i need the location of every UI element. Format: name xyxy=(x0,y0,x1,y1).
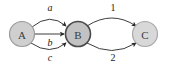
edge-label-a: a xyxy=(48,2,53,13)
graph-canvas: A B C a b c 1 2 xyxy=(0,0,170,67)
edge-1-path xyxy=(87,18,136,26)
edge-2-path xyxy=(87,43,136,51)
edge-label-c: c xyxy=(48,52,53,63)
edge-group-b-to-c xyxy=(87,18,136,51)
node-c[interactable]: C xyxy=(133,22,158,47)
node-b-label: B xyxy=(74,29,81,41)
node-c-label: C xyxy=(141,29,148,41)
node-a-label: A xyxy=(18,29,26,41)
edge-label-2: 2 xyxy=(111,52,116,63)
graph-diagram: A B C a b c 1 2 xyxy=(0,0,170,67)
edge-label-b: b xyxy=(48,37,53,48)
node-a[interactable]: A xyxy=(10,22,35,47)
node-b[interactable]: B xyxy=(66,22,91,47)
edge-a-path xyxy=(32,19,66,27)
edge-label-1: 1 xyxy=(111,2,116,13)
